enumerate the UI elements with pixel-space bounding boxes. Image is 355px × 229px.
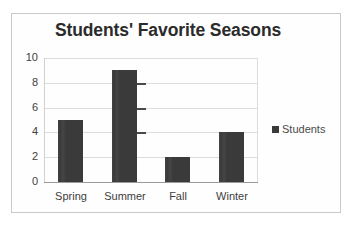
bar-summer	[112, 70, 137, 182]
x-tick-label-summer: Summer	[98, 190, 152, 202]
y-tick-label: 8	[12, 77, 38, 88]
legend-label-students: Students	[282, 123, 325, 135]
y-tick-label: 6	[12, 102, 38, 113]
bar-winter	[219, 132, 244, 182]
gridline	[44, 108, 258, 109]
legend-swatch-students	[272, 126, 279, 133]
y-tick-label: 10	[12, 52, 38, 63]
x-tick-label-fall: Fall	[151, 190, 205, 202]
x-tick-label-spring: Spring	[44, 190, 98, 202]
chart-title: Students' Favorite Seasons	[18, 20, 318, 41]
y-axis-line	[44, 58, 45, 182]
x-tick-label-winter: Winter	[205, 190, 259, 202]
scan-artifact-dash	[137, 83, 146, 85]
gridline	[44, 83, 258, 84]
y-tick-label: 2	[12, 151, 38, 162]
y-tick-label: 4	[12, 126, 38, 137]
bar-spring	[58, 120, 83, 182]
scan-artifact-dash	[137, 108, 146, 110]
axis-baseline	[44, 182, 258, 183]
gridline	[44, 58, 258, 59]
chart-border	[11, 13, 341, 213]
plot-right-edge	[257, 58, 258, 182]
scan-artifact-dash	[137, 132, 146, 134]
bar-chart-figure: Students' Favorite Seasons 0246810 Sprin…	[0, 0, 355, 229]
y-tick-label: 0	[12, 176, 38, 187]
bar-fall	[165, 157, 190, 182]
chart-legend: Students	[272, 123, 325, 135]
